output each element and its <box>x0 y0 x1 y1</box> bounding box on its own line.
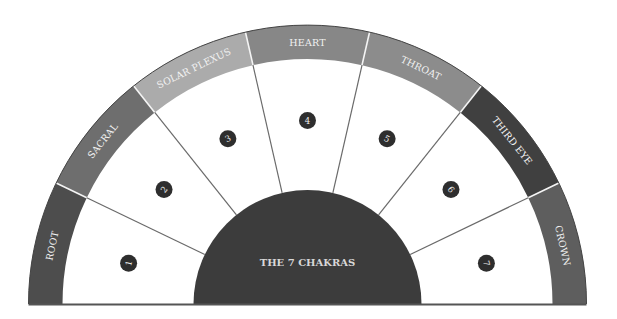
center-title: THE 7 CHAKRAS <box>260 257 356 268</box>
sector-divider <box>155 112 237 214</box>
sector-divider <box>87 198 205 255</box>
center-semicircle <box>194 190 422 304</box>
sector-divider <box>253 65 282 193</box>
chakra-semicircle-diagram: ROOTSACRALSOLAR PLEXUSHEARTTHROATTHIRD E… <box>0 0 617 319</box>
chakra-number: 4 <box>305 116 310 126</box>
chakra-name-label: HEART <box>289 37 326 48</box>
center-hub: THE 7 CHAKRAS <box>194 190 422 304</box>
sector-divider <box>333 65 362 193</box>
sector-divider <box>410 198 528 255</box>
sector-divider <box>379 112 461 214</box>
